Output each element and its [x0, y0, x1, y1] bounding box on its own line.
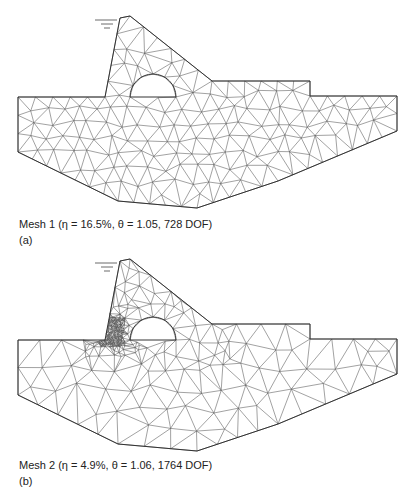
mesh-elements — [18, 16, 397, 208]
mesh-elements — [18, 259, 397, 451]
domain-boundary — [18, 16, 397, 208]
figure-b: Mesh 2 (η = 4.9%, θ = 1.06, 1764 DOF) (b… — [0, 243, 412, 489]
domain-boundary — [18, 259, 397, 451]
gallery-opening — [130, 317, 176, 340]
figure-b-caption: Mesh 2 (η = 4.9%, θ = 1.06, 1764 DOF) — [19, 459, 212, 471]
water-level-icon — [95, 20, 117, 28]
mesh-2-drawing — [0, 243, 412, 458]
figure-a: Mesh 1 (η = 16.5%, θ = 1.05, 728 DOF) (a… — [0, 0, 412, 248]
gallery-opening — [130, 74, 176, 97]
figure-a-caption: Mesh 1 (η = 16.5%, θ = 1.05, 728 DOF) — [19, 218, 212, 230]
figure-b-label: (b) — [19, 475, 32, 487]
mesh-1-drawing — [0, 0, 412, 215]
water-level-icon — [95, 263, 117, 271]
